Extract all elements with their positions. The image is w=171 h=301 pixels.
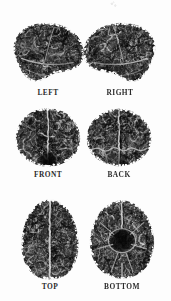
scan-artifact-speck: [109, 1, 118, 8]
view-label-right: RIGHT: [80, 88, 160, 97]
brain-view-top: TOP: [19, 198, 81, 296]
brain-render-front: [13, 106, 83, 168]
view-label-left: LEFT: [9, 88, 87, 97]
view-label-top: TOP: [19, 282, 81, 291]
view-label-bottom: BOTTOM: [88, 282, 156, 291]
brain-render-right: [80, 19, 160, 87]
view-label-front: FRONT: [13, 170, 83, 179]
brain-view-back: BACK: [83, 106, 155, 182]
brain-render-back: [83, 106, 155, 168]
brain-views-figure: LEFT RIGHT FRONT BACK TOP BOTTOM: [0, 0, 171, 301]
brain-view-bottom: BOTTOM: [88, 198, 156, 296]
brain-render-left: [9, 19, 87, 87]
brain-render-top: [19, 198, 81, 280]
view-label-back: BACK: [83, 170, 155, 179]
brain-view-right: RIGHT: [80, 19, 160, 97]
brain-render-bottom: [88, 198, 156, 280]
brain-view-front: FRONT: [13, 106, 83, 182]
brain-view-left: LEFT: [9, 19, 87, 97]
